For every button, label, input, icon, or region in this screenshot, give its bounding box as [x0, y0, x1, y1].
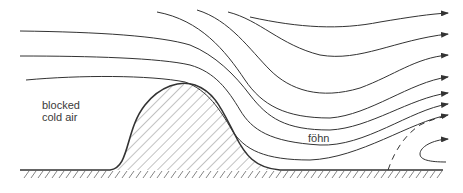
streamline-2	[228, 12, 448, 56]
ground-hatch	[24, 171, 442, 178]
foehn-diagram	[0, 0, 463, 193]
streamline-3	[197, 10, 448, 93]
streamline-1	[250, 13, 448, 27]
streamline-5	[20, 31, 448, 130]
rotor-arrow	[420, 139, 448, 162]
blocked-label-line2: cold air	[42, 111, 77, 123]
blocked-label-line1: blocked	[42, 99, 80, 111]
blocked-cold-air-label: blocked cold air	[42, 99, 80, 123]
fohn-label: föhn	[308, 132, 329, 144]
